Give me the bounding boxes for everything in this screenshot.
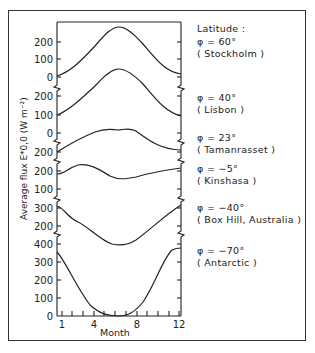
legend-title: Latitude : bbox=[197, 23, 245, 35]
legend-place: ( Box Hill, Australia ) bbox=[197, 214, 301, 226]
legend-phi: φ = −40° bbox=[197, 202, 301, 214]
curve-tamanrasset bbox=[57, 129, 181, 152]
legend-place: ( Lisbon ) bbox=[197, 104, 244, 116]
svg-text:300: 300 bbox=[34, 203, 53, 214]
svg-text:100: 100 bbox=[34, 293, 53, 304]
svg-text:4: 4 bbox=[91, 319, 97, 330]
legend-phi: φ = 23° bbox=[197, 132, 275, 144]
legend-place: ( Kinshasa ) bbox=[197, 175, 257, 187]
legend-entry-tamanrasset: φ = 23° ( Tamanrasset ) bbox=[197, 132, 275, 156]
svg-text:100: 100 bbox=[34, 184, 53, 195]
x-axis-label: Month bbox=[100, 327, 130, 338]
curve-box-hill bbox=[57, 205, 181, 245]
legend-place: ( Antarctic ) bbox=[197, 257, 257, 269]
svg-text:100: 100 bbox=[34, 110, 53, 121]
legend-entry-lisbon: φ = 40° ( Lisbon ) bbox=[197, 92, 244, 116]
svg-text:400: 400 bbox=[34, 239, 53, 250]
legend-phi: φ = 40° bbox=[197, 92, 244, 104]
svg-text:0: 0 bbox=[47, 72, 53, 83]
svg-text:0: 0 bbox=[47, 128, 53, 139]
svg-text:200: 200 bbox=[34, 91, 53, 102]
legend-entry-antarctic: φ = −70° ( Antarctic ) bbox=[197, 245, 257, 269]
legend-phi: φ = −5° bbox=[197, 163, 257, 175]
curve-lisbon bbox=[57, 69, 181, 116]
svg-text:200: 200 bbox=[34, 37, 53, 48]
svg-text:100: 100 bbox=[34, 54, 53, 65]
svg-text:300: 300 bbox=[34, 257, 53, 268]
svg-text:200: 200 bbox=[34, 147, 53, 158]
legend-phi: φ = −70° bbox=[197, 245, 257, 257]
svg-text:12: 12 bbox=[173, 319, 186, 330]
y-ticks bbox=[57, 42, 181, 298]
legend-entry-stockholm: φ = 60° ( Stockholm ) bbox=[197, 36, 264, 60]
svg-text:200: 200 bbox=[34, 166, 53, 177]
x-ticks bbox=[62, 311, 179, 316]
y-tick-labels: 200 100 0 200 100 0 200 200 100 300 200 … bbox=[34, 37, 53, 322]
legend-phi: φ = 60° bbox=[197, 36, 264, 48]
legend-place: ( Tamanrasset ) bbox=[197, 144, 275, 156]
curve-antarctic bbox=[57, 248, 181, 316]
svg-text:200: 200 bbox=[34, 221, 53, 232]
left-axis bbox=[54, 22, 60, 316]
legend-entry-kinshasa: φ = −5° ( Kinshasa ) bbox=[197, 163, 257, 187]
svg-text:0: 0 bbox=[47, 311, 53, 322]
legend-place: ( Stockholm ) bbox=[197, 48, 264, 60]
svg-text:8: 8 bbox=[134, 319, 140, 330]
svg-text:1: 1 bbox=[59, 319, 65, 330]
legend-entry-box-hill: φ = −40° ( Box Hill, Australia ) bbox=[197, 202, 301, 226]
svg-text:200: 200 bbox=[34, 275, 53, 286]
right-axis bbox=[178, 22, 184, 316]
y-axis-label: Average flux E*0,0 (W m⁻²) bbox=[19, 100, 29, 220]
curve-kinshasa bbox=[57, 165, 181, 179]
chart-plot: 200 100 0 200 100 0 200 200 100 300 200 … bbox=[0, 0, 315, 353]
